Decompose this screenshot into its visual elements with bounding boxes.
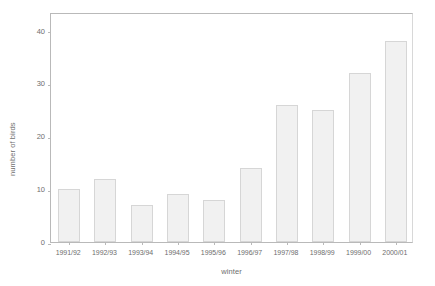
bar bbox=[94, 179, 116, 242]
x-tick-mark bbox=[323, 242, 324, 245]
x-tick-mark bbox=[251, 242, 252, 245]
y-axis-label: number of birds bbox=[6, 104, 20, 194]
x-tick-label: 1991/92 bbox=[50, 249, 86, 256]
y-tick-mark bbox=[48, 85, 51, 86]
y-tick-label: 30 bbox=[37, 80, 45, 88]
y-tick-label: 10 bbox=[37, 186, 45, 194]
x-tick-label: 1993/94 bbox=[123, 249, 159, 256]
x-tick-mark bbox=[214, 242, 215, 245]
y-tick-mark bbox=[48, 138, 51, 139]
x-tick-mark bbox=[396, 242, 397, 245]
x-tick-mark bbox=[287, 242, 288, 245]
x-tick-mark bbox=[360, 242, 361, 245]
bar bbox=[167, 194, 189, 242]
y-tick-mark bbox=[48, 32, 51, 33]
bar bbox=[203, 200, 225, 242]
bar bbox=[131, 205, 153, 242]
x-tick-mark bbox=[178, 242, 179, 245]
x-tick-label: 1995/96 bbox=[195, 249, 231, 256]
y-tick-label: 20 bbox=[37, 133, 45, 141]
bar-chart: number of birds 010203040 1991/921992/93… bbox=[0, 0, 435, 286]
bar bbox=[240, 168, 262, 242]
x-tick-label: 2000/01 bbox=[377, 249, 413, 256]
bar bbox=[58, 189, 80, 242]
x-tick-label: 1994/95 bbox=[159, 249, 195, 256]
bar bbox=[276, 105, 298, 242]
x-tick-mark bbox=[142, 242, 143, 245]
y-tick-label: 40 bbox=[37, 28, 45, 36]
x-tick-label: 1992/93 bbox=[86, 249, 122, 256]
bar bbox=[349, 73, 371, 242]
y-tick-mark bbox=[48, 244, 51, 245]
x-tick-mark bbox=[69, 242, 70, 245]
x-tick-label: 1999/00 bbox=[340, 249, 376, 256]
y-tick-mark bbox=[48, 191, 51, 192]
x-tick-mark bbox=[105, 242, 106, 245]
x-tick-label: 1997/98 bbox=[268, 249, 304, 256]
x-axis-label: winter bbox=[50, 268, 413, 276]
bar bbox=[312, 110, 334, 242]
x-tick-label: 1996/97 bbox=[232, 249, 268, 256]
bar bbox=[385, 41, 407, 242]
y-tick-label: 0 bbox=[41, 239, 45, 247]
x-tick-label: 1998/99 bbox=[304, 249, 340, 256]
plot-area: 010203040 bbox=[50, 13, 413, 243]
